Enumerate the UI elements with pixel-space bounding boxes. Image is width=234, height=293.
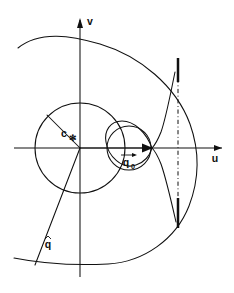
q-hat-ray-line — [35, 148, 80, 265]
u-axis-arrowhead — [214, 145, 222, 151]
c-star-subscript: ✻ — [69, 133, 77, 143]
q-zero-base: q — [123, 156, 129, 168]
limit-circle-arc — [14, 36, 197, 264]
v-axis-label: v — [87, 15, 93, 27]
hodograph-figure: u v c ✻ q 0 q — [0, 0, 234, 293]
epicycloid-lower-branch — [152, 148, 176, 222]
q-zero-label: q 0 — [121, 153, 137, 171]
c-star-label: c ✻ — [61, 127, 77, 143]
v-axis-arrowhead — [77, 18, 83, 28]
u-axis-label: u — [212, 152, 218, 164]
c-star-base: c — [61, 127, 67, 139]
hodograph-diagram-svg: u v c ✻ q 0 q — [0, 0, 234, 293]
epicycloid-upper-branch — [152, 72, 175, 148]
q-zero-subscript: 0 — [131, 162, 135, 171]
q-zero-vector-accent-head — [132, 153, 137, 157]
q-hat-label: q — [45, 236, 51, 250]
q-hat-base: q — [45, 238, 51, 250]
